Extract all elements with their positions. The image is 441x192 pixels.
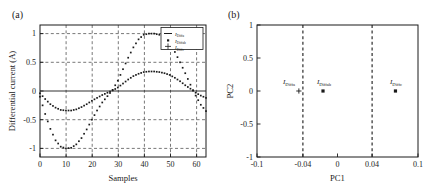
panel-a-xtick-0: 0	[38, 160, 42, 169]
panel-b-x-ticks: -0.1 -0.04 0 0.04 0.1	[251, 154, 423, 170]
panel-a: (a)	[0, 0, 220, 192]
point-label-i-diffab: IDiffab	[316, 78, 332, 87]
panel-b-ylabel: PC2	[225, 84, 235, 99]
panel-a-tag: (a)	[12, 9, 23, 20]
point-label-i-diffa: IDiffa	[282, 78, 295, 87]
panel-a-xtick-1: 10	[62, 160, 70, 169]
panel-b-ytick-3: -0.5	[240, 120, 253, 129]
panel-a-xtick-4: 40	[140, 160, 148, 169]
panel-b-xtick-4: 0.1	[413, 160, 423, 169]
panel-a-xtick-3: 30	[114, 160, 122, 169]
panel-a-x-ticks: 0 10 20 30 40 50 60	[38, 154, 201, 170]
panel-a-xlabel: Samples	[108, 173, 138, 183]
panel-a-ytick-0: 1	[32, 29, 36, 38]
panel-b-plot: 1 0.5 0 -0.5 -1 -0.1 -0.04 0 0.04 0.1 PC	[220, 0, 441, 192]
panel-a-ytick-3: -0.5	[23, 116, 36, 125]
panel-b-ytick-1: 0.5	[243, 54, 253, 63]
panel-b-xtick-2: 0	[336, 160, 340, 169]
legend-swatch-square	[167, 39, 169, 41]
panel-b-xtick-0: -0.1	[251, 160, 264, 169]
panel-a-ylabel: Differential current (A)	[7, 51, 17, 132]
panel-a-xtick-2: 20	[88, 160, 96, 169]
panel-a-xtick-5: 50	[167, 160, 175, 169]
panel-a-ytick-1: 0.5	[26, 58, 36, 67]
panel-b-reference-lines	[303, 25, 372, 157]
panel-b: (b) 1 0.5 0 -0.5 -1	[220, 0, 441, 192]
panel-b-ytick-2: 0	[249, 87, 253, 96]
panel-b-tag: (b)	[228, 9, 240, 20]
panel-a-xtick-6: 60	[193, 160, 201, 169]
point-label-i-diffc: IDiffc	[389, 78, 402, 87]
figure-container: (a)	[0, 0, 441, 192]
panel-a-legend: IDiffa IDiffab IDiffc	[161, 28, 203, 52]
panel-b-points	[296, 88, 397, 93]
panel-b-xtick-1: -0.04	[295, 160, 312, 169]
panel-a-ytick-2: 0	[32, 87, 36, 96]
panel-b-ytick-0: 1	[249, 21, 253, 30]
panel-b-xlabel: PC1	[330, 173, 345, 183]
panel-a-plot: 1 0.5 0 -0.5 -1 0 10 20 30 40 50	[0, 0, 220, 192]
panel-a-ytick-4: -1	[29, 144, 36, 153]
panel-b-xtick-3: 0.04	[365, 160, 379, 169]
panel-b-frame	[257, 25, 418, 157]
